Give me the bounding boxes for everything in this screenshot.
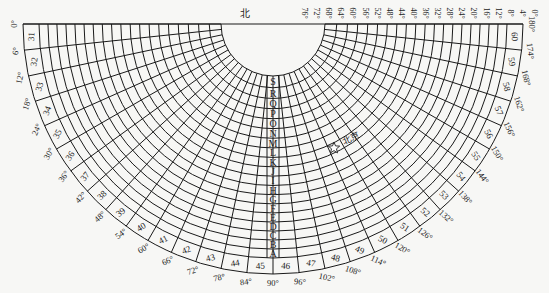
degree-label: 36°	[56, 168, 71, 184]
band-number-41: 41	[157, 233, 170, 246]
degree-label: 180°	[527, 16, 537, 32]
top-label: 56°	[361, 7, 370, 18]
degree-label: 0°	[9, 20, 19, 28]
top-label: 72°	[312, 7, 321, 18]
degree-label: 42°	[73, 190, 88, 206]
ring-letter-S: S	[270, 76, 276, 87]
top-label: 40°	[409, 7, 418, 18]
band-number-31: 31	[26, 32, 36, 42]
top-label: 24°	[457, 7, 466, 18]
radial-line	[126, 66, 242, 226]
radial-line	[45, 45, 226, 126]
band-number-43: 43	[205, 252, 217, 264]
top-label: 44°	[397, 7, 406, 18]
ring-letter-O: O	[269, 118, 276, 129]
degree-label: 60°	[136, 241, 151, 256]
band-number-58: 58	[501, 81, 513, 93]
band-number-36: 36	[63, 149, 77, 162]
band-number-55: 55	[469, 149, 483, 162]
band-number-34: 34	[41, 104, 54, 116]
degree-label: 30°	[41, 146, 56, 161]
radial-line	[171, 72, 252, 253]
band-number-52: 52	[419, 205, 432, 218]
degree-label: 102°	[318, 271, 336, 284]
degree-label: 174°	[525, 43, 537, 60]
band-number-44: 44	[230, 257, 241, 268]
band-number-60: 60	[509, 32, 519, 42]
top-label: 28°	[445, 7, 454, 18]
ring-letter-Q: Q	[269, 98, 277, 109]
radial-line	[35, 40, 223, 101]
top-label: 68°	[324, 7, 333, 18]
degree-label: 24°	[29, 122, 43, 137]
ring-letter-K: K	[269, 157, 277, 168]
top-label: 12°	[494, 7, 503, 18]
degree-label: 66°	[160, 254, 175, 268]
radial-line	[106, 63, 238, 210]
band-number-32: 32	[28, 57, 39, 67]
band-number-48: 48	[330, 252, 342, 264]
top-label: 64°	[336, 7, 345, 18]
top-label: 4°	[518, 9, 527, 16]
degree-label: 18°	[20, 97, 33, 111]
radial-line	[87, 59, 234, 191]
degree-label: 84°	[239, 276, 252, 287]
ring-letter-R: R	[270, 88, 277, 99]
degree-label: 156°	[502, 120, 518, 139]
band-number-57: 57	[493, 105, 506, 117]
ring-letter-N: N	[269, 128, 276, 139]
degree-label: 90°	[267, 278, 279, 288]
north-label: 北	[240, 8, 250, 19]
ring-letter-M: M	[269, 138, 278, 149]
band-number-56: 56	[482, 128, 495, 141]
band-number-53: 53	[437, 188, 451, 202]
top-label: 0°	[530, 9, 539, 16]
radial-line	[196, 73, 257, 261]
top-label: 60°	[348, 7, 357, 18]
ring-letter-J: J	[271, 166, 275, 177]
radial-line	[71, 55, 231, 171]
band-number-42: 42	[180, 244, 192, 257]
radial-line	[304, 66, 420, 226]
degree-label: 78°	[212, 271, 226, 283]
degree-label: 162°	[512, 95, 527, 113]
band-number-47: 47	[306, 257, 317, 268]
band-number-35: 35	[51, 127, 64, 140]
degree-label: 96°	[294, 276, 307, 287]
top-label: 36°	[421, 7, 430, 18]
degree-label: 114°	[369, 253, 388, 269]
band-number-51: 51	[398, 220, 411, 233]
top-label: 76°	[300, 7, 309, 18]
degree-label: 108°	[344, 263, 362, 278]
band-number-33: 33	[33, 81, 45, 93]
top-label: 8°	[506, 9, 515, 16]
band-number-46: 46	[281, 260, 291, 270]
ring-arc	[221, 24, 325, 76]
radial-line	[315, 55, 475, 171]
radial-line	[312, 59, 459, 191]
band-number-38: 38	[95, 188, 109, 202]
degree-label: 6°	[10, 47, 21, 56]
top-label: 20°	[469, 7, 478, 18]
band-number-49: 49	[354, 244, 366, 257]
polar-grid-svg: ABCDEFGHIJKLMNOPQRS313233343536373839404…	[0, 0, 549, 293]
top-label: 32°	[433, 7, 442, 18]
top-label: 52°	[373, 7, 382, 18]
radial-line	[321, 45, 502, 126]
radial-line	[294, 72, 375, 253]
band-number-40: 40	[135, 220, 148, 234]
degree-label: 120°	[393, 240, 412, 257]
band-number-54: 54	[454, 170, 468, 184]
degree-label: 150°	[489, 144, 506, 163]
degree-label: 144°	[474, 167, 492, 186]
band-number-37: 37	[78, 169, 92, 183]
degree-label: 12°	[14, 71, 26, 85]
band-number-50: 50	[377, 233, 390, 246]
top-label: 48°	[385, 7, 394, 18]
degree-label: 54°	[113, 226, 129, 241]
degree-label: 126°	[416, 225, 435, 243]
band-number-59: 59	[506, 57, 517, 68]
degree-label: 48°	[92, 209, 108, 224]
ring-letter-L: L	[270, 147, 276, 158]
band-number-39: 39	[114, 205, 128, 219]
